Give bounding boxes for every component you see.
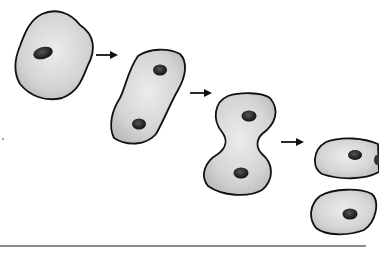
nucleus — [348, 150, 362, 160]
nucleus — [132, 119, 146, 130]
cell-stage-4-bottom — [311, 190, 376, 235]
cell-division-diagram — [0, 0, 379, 253]
cell-stage-4-top — [315, 138, 379, 178]
cell-stage-2 — [111, 50, 185, 144]
nucleus — [242, 111, 257, 122]
diagram-canvas — [0, 0, 379, 253]
arrow-2 — [190, 89, 212, 97]
arrow-3 — [281, 138, 304, 146]
cell-stage-1 — [15, 11, 92, 99]
nucleus — [153, 65, 167, 76]
arrow-1 — [96, 51, 118, 59]
cell-stage-3 — [204, 93, 276, 195]
nucleus — [343, 209, 358, 220]
nucleus — [234, 168, 249, 179]
